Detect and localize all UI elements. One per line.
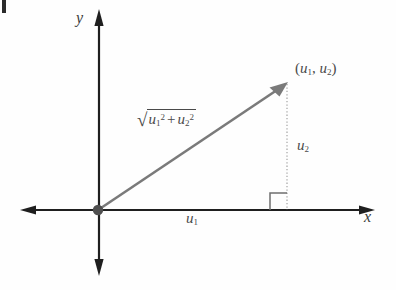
vector-shaft: [98, 88, 280, 210]
u1-length-label: u1: [186, 211, 198, 227]
radicand-u1-base: u: [148, 111, 156, 127]
radicand: u12+u22: [147, 109, 195, 128]
point-u1-base: u: [300, 60, 308, 76]
right-angle-marker: [270, 193, 287, 210]
point-coordinate-label: (u1, u2): [295, 61, 337, 77]
point-u2-base: u: [320, 60, 328, 76]
x-axis-label: x: [364, 209, 371, 225]
radical-sign: √: [137, 109, 147, 131]
y-axis-label: y: [76, 10, 83, 26]
u2-length-label: u2: [297, 138, 309, 154]
radicand-u2-exponent: 2: [189, 112, 194, 122]
y-axis-down-arrowhead: [94, 259, 103, 276]
u2-subscript: 2: [305, 144, 310, 154]
y-axis-up-arrowhead: [94, 9, 103, 26]
radicand-u2-base: u: [177, 111, 185, 127]
paren-close: ): [332, 60, 337, 76]
u1-subscript: 1: [194, 217, 199, 227]
vertical-axis: [94, 9, 103, 276]
radicand-plus: +: [165, 111, 177, 127]
magnitude-expression: √u12+u22: [137, 108, 196, 130]
vector-arrow: [98, 82, 288, 210]
x-axis-left-arrowhead: [20, 206, 36, 215]
u1-base: u: [186, 210, 194, 226]
origin-dot: [93, 205, 103, 215]
point-comma: ,: [312, 60, 320, 76]
diagram-canvas: [0, 0, 396, 290]
vector-magnitude-figure: y x (u1, u2) u2 u1 √u12+u22: [0, 0, 396, 290]
u2-base: u: [297, 137, 305, 153]
